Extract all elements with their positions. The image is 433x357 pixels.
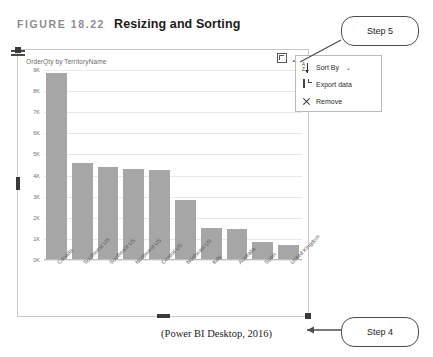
y-axis-tick-label: 6K: [33, 130, 40, 136]
y-axis-tick-label: 8K: [33, 88, 40, 94]
menu-item-sort-by[interactable]: AZ Sort By ⌄: [296, 59, 381, 76]
x-label-slot: Central US: [149, 260, 170, 306]
menu-item-export-data[interactable]: Export data: [296, 76, 381, 93]
focus-mode-icon[interactable]: [277, 53, 287, 63]
menu-item-export-data-label: Export data: [316, 81, 352, 88]
menu-item-sort-by-label: Sort By: [316, 64, 339, 71]
close-x-icon: [302, 97, 311, 107]
chart-bar-slot: [46, 70, 67, 260]
chart-bar-slot: [227, 70, 248, 260]
x-label-slot: Australia: [227, 260, 248, 306]
chart-bar-slot: [98, 70, 119, 260]
y-axis-tick-label: 2K: [33, 215, 40, 221]
chart-bar-slot: [123, 70, 144, 260]
chart-x-axis-labels: CanadaSouthwest USSoutheast USNorthwest …: [44, 260, 302, 306]
menu-item-remove-label: Remove: [316, 98, 342, 105]
visual-context-menu[interactable]: AZ Sort By ⌄ Export data Remove: [295, 55, 382, 112]
resize-handle-left-middle[interactable]: [16, 177, 20, 190]
power-bi-visual-container[interactable]: ... OrderQty by TerritoryName 0K1K2K3K4K…: [17, 49, 309, 317]
chart-bar-slot: [149, 70, 170, 260]
chevron-down-icon[interactable]: ⌄: [346, 64, 351, 71]
chart-bars: [44, 70, 302, 260]
resize-handle-top-left[interactable]: [15, 47, 21, 53]
x-label-slot: Canada: [46, 260, 67, 306]
callout-step-5: Step 5: [341, 16, 419, 46]
callout-step-5-label: Step 5: [367, 26, 393, 36]
chart-bar[interactable]: [72, 163, 93, 260]
x-label-slot: Spain: [252, 260, 273, 306]
figure-heading: FIGURE 18.22Resizing and Sorting: [17, 14, 240, 32]
y-axis-tick-label: 7K: [33, 109, 40, 115]
x-label-slot: Southeast US: [98, 260, 119, 306]
x-label-slot: Northwest US: [123, 260, 144, 306]
chart-plot-area: 0K1K2K3K4K5K6K7K8K9K: [44, 70, 302, 260]
menu-item-remove[interactable]: Remove: [296, 93, 381, 110]
resize-handle-bottom-right[interactable]: [305, 313, 311, 319]
y-axis-tick-label: 0K: [33, 257, 40, 263]
chart-title: OrderQty by TerritoryName: [26, 58, 106, 65]
resize-handle-bottom-middle[interactable]: [157, 314, 170, 318]
sort-az-icon: AZ: [302, 63, 311, 73]
y-axis-tick-label: 3K: [33, 194, 40, 200]
y-axis-tick-label: 1K: [33, 236, 40, 242]
figure-title: Resizing and Sorting: [114, 17, 240, 31]
x-label-slot: Northeast US: [175, 260, 196, 306]
y-axis-tick-label: 9K: [33, 67, 40, 73]
x-label-slot: Southwest US: [72, 260, 93, 306]
figure-caption: (Power BI Desktop, 2016): [0, 328, 433, 339]
chart-bar-slot: [175, 70, 196, 260]
file-icon: [302, 80, 311, 90]
chart-bar-slot: [72, 70, 93, 260]
chart-bar-slot: [201, 70, 222, 260]
y-axis-tick-label: 5K: [33, 151, 40, 157]
chart-bar[interactable]: [46, 73, 67, 260]
x-label-slot: Italy: [201, 260, 222, 306]
figure-number: FIGURE 18.22: [17, 18, 105, 30]
y-axis-tick-label: 4K: [33, 173, 40, 179]
x-label-slot: United Kingdom: [278, 260, 299, 306]
chart-bar-slot: [252, 70, 273, 260]
